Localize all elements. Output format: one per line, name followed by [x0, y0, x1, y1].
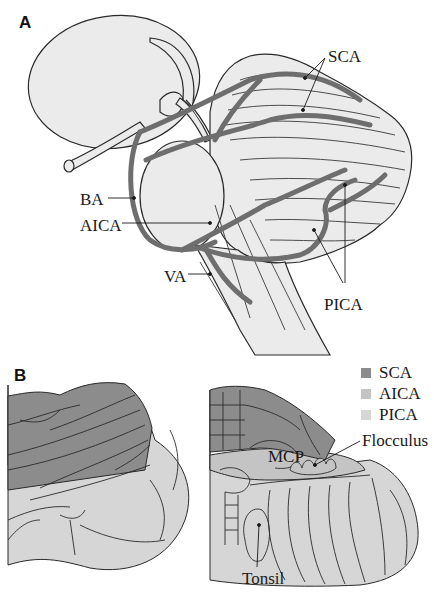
pica-swatch: [361, 410, 371, 420]
panel-b-leader-lines: [0, 0, 434, 593]
legend-label-pica: PICA: [379, 405, 418, 425]
sca-swatch: [361, 368, 371, 378]
legend-label-sca: SCA: [379, 363, 412, 383]
aica-swatch: [361, 389, 371, 399]
legend-item-aica: AICA: [361, 383, 421, 404]
territory-legend: SCA AICA PICA: [361, 362, 421, 425]
legend-item-pica: PICA: [361, 404, 421, 425]
legend-item-sca: SCA: [361, 362, 421, 383]
legend-label-aica: AICA: [379, 384, 421, 404]
